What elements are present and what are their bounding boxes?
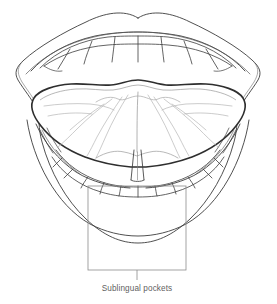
lower-tooth-separator-right-5 [214, 158, 223, 167]
upper-tooth-separator-right-1 [161, 37, 164, 62]
lower-tooth-separator-left-4 [64, 169, 73, 178]
callout-box [88, 186, 186, 270]
upper-tooth-separator-right-3 [206, 49, 218, 69]
upper-tooth-separator-left-3 [58, 49, 70, 69]
tongue-ventral-outline [32, 80, 245, 167]
upper-tooth-separator-left-1 [112, 37, 115, 62]
callout-group: Sublingual pockets [88, 186, 186, 293]
upper-teeth-group [40, 36, 236, 71]
upper-tooth-separator-right-2 [184, 41, 192, 64]
anatomy-figure: Sublingual pockets [0, 0, 277, 304]
callout-label: Sublingual pockets [102, 284, 173, 293]
lower-tooth-separator-left-5 [53, 158, 62, 167]
tongue-group [32, 80, 245, 182]
lower-tooth-separator-right-4 [203, 169, 212, 178]
upper-tooth-separator-left-2 [84, 41, 92, 64]
anatomy-illustration: Sublingual pockets [0, 0, 277, 304]
